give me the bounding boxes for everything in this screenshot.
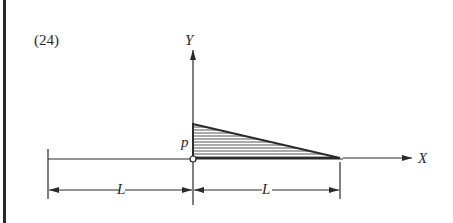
origin-hinge bbox=[190, 156, 196, 162]
load-outline bbox=[193, 124, 340, 158]
beam-diagram bbox=[0, 0, 453, 223]
